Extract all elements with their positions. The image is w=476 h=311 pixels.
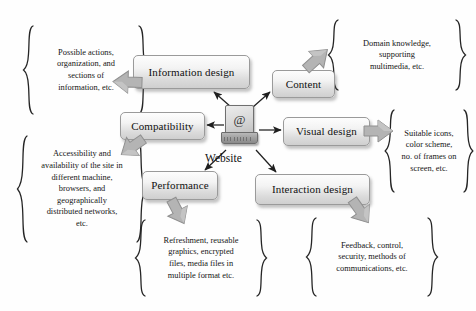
annotation-performance-text: Refreshment, reusable graphics, encrypte… — [147, 235, 255, 281]
at-sign-icon: @ — [234, 112, 246, 128]
node-performance[interactable]: Performance — [142, 171, 218, 200]
left-brace — [305, 216, 318, 298]
node-content[interactable]: Content — [272, 70, 335, 98]
annotation-performance: Refreshment, reusable graphics, encrypte… — [134, 218, 268, 298]
annotation-interaction-design: Feedback, control, security, methods of … — [305, 216, 439, 298]
node-visual-design-label: Visual design — [296, 125, 357, 137]
node-information-design-label: Information design — [149, 66, 235, 78]
node-performance-label: Performance — [151, 179, 208, 191]
annotation-compatibility-text: Accessibility and availability of the si… — [29, 148, 135, 229]
annotation-visual-design-text: Suitable icons, color scheme, no. of fra… — [396, 128, 462, 174]
left-brace — [384, 108, 396, 194]
annotation-compatibility: Accessibility and availability of the si… — [16, 134, 148, 244]
node-interaction-design-label: Interaction design — [272, 183, 353, 195]
left-brace — [134, 218, 147, 298]
annotation-information-design: Possible actions, organization, and sect… — [22, 24, 150, 116]
right-brace — [426, 216, 439, 298]
hub-label: Website — [205, 152, 242, 164]
annotation-interaction-design-text: Feedback, control, security, methods of … — [318, 240, 426, 275]
node-compatibility[interactable]: Compatibility — [120, 112, 205, 140]
node-content-label: Content — [286, 78, 322, 90]
right-brace — [454, 18, 467, 92]
left-brace — [22, 24, 35, 116]
right-brace — [462, 108, 474, 194]
diagram-canvas: Information design Content Compatibility… — [0, 0, 476, 311]
node-compatibility-label: Compatibility — [131, 120, 193, 132]
node-interaction-design[interactable]: Interaction design — [255, 174, 370, 205]
laptop-screen: @ — [225, 105, 254, 134]
node-visual-design[interactable]: Visual design — [283, 117, 370, 146]
laptop-icon: @ — [221, 105, 256, 143]
laptop-keyboard — [224, 137, 253, 141]
annotation-information-design-text: Possible actions, organization, and sect… — [35, 47, 137, 93]
annotation-content: Domain knowledge, supporting multimedia,… — [327, 18, 467, 92]
left-brace — [16, 134, 29, 244]
right-brace — [255, 218, 268, 298]
node-information-design[interactable]: Information design — [133, 55, 250, 89]
annotation-content-text: Domain knowledge, supporting multimedia,… — [340, 38, 454, 73]
annotation-visual-design: Suitable icons, color scheme, no. of fra… — [384, 108, 474, 194]
